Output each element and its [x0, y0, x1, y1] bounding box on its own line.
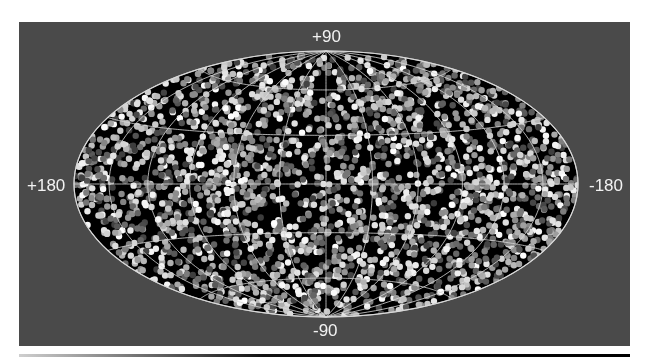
- axis-label-top: +90: [312, 28, 341, 45]
- axis-label-right: -180: [589, 177, 623, 194]
- divider: [19, 354, 630, 357]
- axis-label-left: +180: [27, 177, 65, 194]
- axis-label-bottom: -90: [313, 322, 338, 339]
- sky-map-plot: [19, 22, 630, 346]
- chart-panel: +90 -90 +180 -180: [19, 22, 630, 346]
